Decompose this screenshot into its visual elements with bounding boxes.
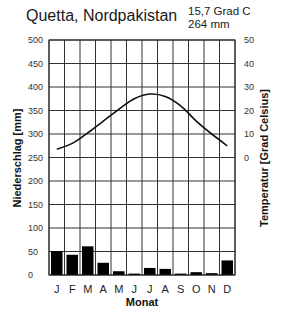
left-axis-label: Niederschlag [mm] [11,108,23,207]
grid-lines [49,40,235,275]
month-labels: JFMAMJJASOND [54,283,231,295]
right-tick-label: 40 [244,59,254,69]
month-label: D [223,283,231,295]
left-tick-label: 350 [28,106,43,116]
precipitation-bar [51,251,63,275]
right-tick-label: 50 [244,35,254,45]
month-label: O [192,283,201,295]
x-axis-label: Monat [126,296,159,308]
left-tick-label: 450 [28,59,43,69]
month-label: J [147,283,153,295]
month-label: A [100,283,108,295]
precipitation-bar [160,269,172,275]
left-tick-label: 300 [28,129,43,139]
month-label: A [162,283,170,295]
right-tick-label: 10 [244,129,254,139]
right-tick-label: 0 [244,153,249,163]
precipitation-bar [82,246,94,275]
right-tick-label: 20 [244,106,254,116]
left-tick-label: 500 [28,35,43,45]
month-label: F [69,283,76,295]
precipitation-bar [67,255,79,275]
right-axis-ticks: 01020304050 [244,35,254,163]
left-tick-label: 250 [28,153,43,163]
precipitation-bar [98,263,110,275]
left-tick-label: 400 [28,82,43,92]
left-tick-label: 0 [28,270,33,280]
climate-chart: 050100150200250300350400450500 010203040… [0,0,283,316]
precipitation-bar [222,260,234,275]
month-label: S [177,283,184,295]
left-tick-label: 200 [28,176,43,186]
month-label: J [132,283,138,295]
right-axis-label: Temperatur [Grad Celsius] [258,89,270,227]
month-label: M [114,283,123,295]
right-tick-label: 30 [244,82,254,92]
left-tick-label: 50 [28,247,38,257]
month-label: J [54,283,60,295]
left-tick-label: 150 [28,200,43,210]
precipitation-bar [113,271,125,275]
left-tick-label: 100 [28,223,43,233]
month-label: N [208,283,216,295]
left-axis-ticks: 050100150200250300350400450500 [28,35,43,280]
precipitation-bar [144,268,156,275]
month-label: M [83,283,92,295]
